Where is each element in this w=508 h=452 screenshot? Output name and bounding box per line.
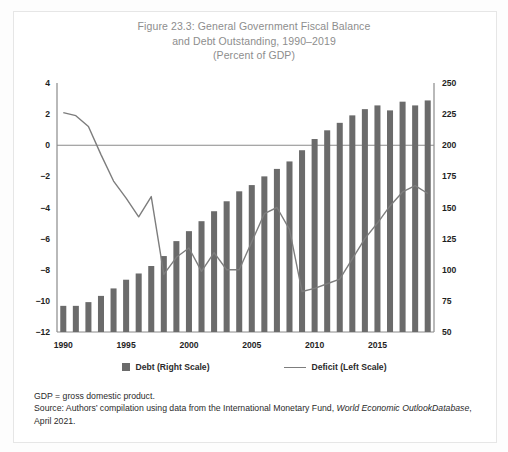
svg-text:250: 250: [442, 78, 457, 88]
note-gdp: GDP = gross domestic product.: [34, 390, 476, 402]
svg-text:2010: 2010: [305, 340, 324, 350]
svg-text:2: 2: [45, 109, 50, 119]
svg-text:2005: 2005: [242, 340, 261, 350]
svg-text:0: 0: [45, 140, 50, 150]
svg-text:125: 125: [442, 234, 457, 244]
svg-text:1995: 1995: [117, 340, 136, 350]
figure-page: Figure 23.3: General Government Fiscal B…: [0, 0, 508, 452]
svg-text:175: 175: [442, 171, 457, 181]
svg-text:150: 150: [442, 203, 457, 213]
svg-text:75: 75: [442, 296, 452, 306]
svg-text:2000: 2000: [179, 340, 198, 350]
legend-label-deficit: Deficit (Left Scale): [312, 362, 387, 372]
note-source: Source: Authors’ compilation using data …: [34, 402, 476, 427]
svg-text:−8: −8: [40, 265, 50, 275]
chart-canvas: 420−2−4−6−8−10−1225022520017515012510075…: [0, 0, 508, 360]
bar-swatch-icon: [122, 363, 130, 371]
legend-item-debt: Debt (Right Scale): [122, 362, 210, 372]
svg-text:−4: −4: [40, 203, 50, 213]
svg-text:50: 50: [442, 327, 452, 337]
svg-text:−6: −6: [40, 234, 50, 244]
line-swatch-icon: [284, 367, 306, 368]
note-source-italic-2: Database: [432, 403, 469, 413]
svg-text:225: 225: [442, 109, 457, 119]
legend-item-deficit: Deficit (Left Scale): [284, 362, 387, 372]
svg-text:1990: 1990: [54, 340, 73, 350]
svg-text:−2: −2: [40, 171, 50, 181]
svg-text:4: 4: [45, 78, 50, 88]
legend-label-debt: Debt (Right Scale): [136, 362, 210, 372]
svg-text:−12: −12: [35, 327, 50, 337]
chart-legend: Debt (Right Scale) Deficit (Left Scale): [0, 362, 508, 372]
svg-text:200: 200: [442, 140, 457, 150]
svg-text:−10: −10: [35, 296, 50, 306]
figure-notes: GDP = gross domestic product. Source: Au…: [34, 390, 476, 427]
svg-text:2015: 2015: [368, 340, 387, 350]
note-source-italic-1: World Economic Outlook: [336, 403, 432, 413]
note-source-text: Source: Authors’ compilation using data …: [34, 403, 336, 413]
svg-text:100: 100: [442, 265, 457, 275]
